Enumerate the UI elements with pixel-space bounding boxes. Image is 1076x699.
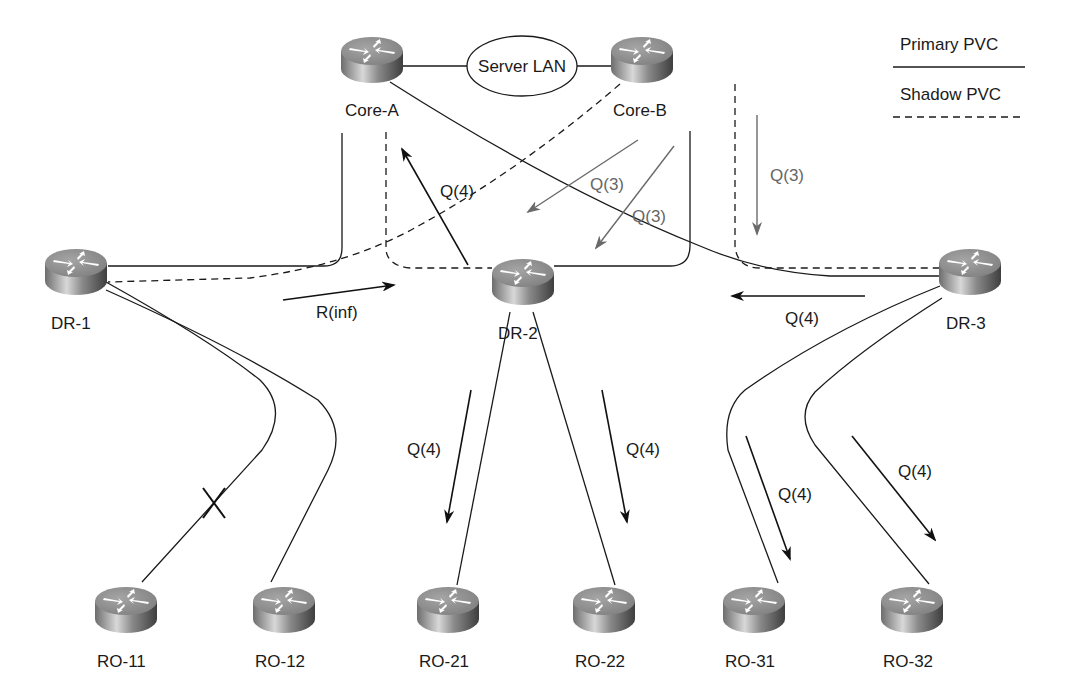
router-core-a: Core-A — [341, 37, 403, 120]
pvc-primary-dr-1-ro-11 — [106, 282, 276, 582]
label-rinf-dr1-to-dr2: R(inf) — [316, 303, 358, 322]
legend-shadow-label: Shadow PVC — [900, 85, 1001, 104]
arrow-q4-dr2-to-core-a — [402, 149, 468, 265]
network-diagram: Primary PVC Shadow PVC Server LAN Q(4) Q… — [0, 0, 1076, 699]
router-label: RO-12 — [255, 652, 305, 671]
pvc-primary-dr-3-ro-31 — [727, 286, 940, 583]
label-q4-dr3-to-dr2: Q(4) — [785, 309, 819, 328]
router-dr-3: DR-3 — [939, 249, 1001, 333]
arrow-q4-dr2-to-ro22 — [602, 390, 627, 522]
pvc-primary-core-a-dr-1 — [108, 133, 342, 266]
router-dr-2: DR-2 — [492, 259, 554, 343]
router-icon — [253, 587, 315, 633]
pvc-primary-dr-2-ro-21 — [457, 312, 510, 585]
pvc-shadow-core-b-dr-3 — [735, 84, 940, 268]
router-icon — [417, 587, 479, 633]
arrow-rinf-dr1-to-dr2 — [283, 285, 394, 300]
router-ro-22: RO-22 — [573, 587, 635, 671]
pvc-shadow-core-a-dr-2 — [386, 132, 492, 268]
router-label: RO-32 — [883, 652, 933, 671]
router-label: RO-22 — [575, 652, 625, 671]
router-icon — [45, 249, 107, 295]
router-label: RO-21 — [419, 652, 469, 671]
label-q4-dr2-to-core-a: Q(4) — [440, 182, 474, 201]
failed-link-x-icon — [203, 488, 225, 518]
label-q3-core-b-to-dr2: Q(3) — [632, 207, 666, 226]
router-label: RO-11 — [97, 652, 146, 671]
router-label: Core-B — [613, 101, 667, 120]
router-label: Core-A — [345, 101, 400, 120]
router-label: DR-1 — [51, 314, 91, 333]
router-core-b: Core-B — [611, 37, 673, 120]
router-icon — [573, 587, 635, 633]
pvc-primary-dr-2-ro-22 — [533, 312, 615, 585]
router-label: DR-3 — [946, 314, 986, 333]
label-q3-core-b-down: Q(3) — [770, 166, 804, 185]
label-q4-dr2-to-ro22: Q(4) — [626, 440, 660, 459]
server-lan-label: Server LAN — [478, 57, 566, 76]
router-icon — [939, 249, 1001, 295]
router-label: RO-31 — [725, 652, 775, 671]
pvc-primary-dr-1-ro-12 — [106, 290, 336, 582]
routers: Core-ACore-BDR-1DR-2DR-3RO-11RO-12RO-21R… — [45, 37, 1001, 671]
router-label: DR-2 — [498, 324, 538, 343]
router-ro-12: RO-12 — [253, 587, 315, 671]
pvc-primary-dr-3-ro-32 — [805, 298, 942, 584]
diagram-canvas: Primary PVC Shadow PVC Server LAN Q(4) Q… — [0, 0, 1076, 699]
legend: Primary PVC Shadow PVC — [893, 35, 1025, 117]
router-icon — [341, 37, 403, 83]
arrow-q4-dr3-to-ro32 — [852, 436, 935, 540]
shadow-pvcs — [108, 84, 940, 282]
server-lan: Server LAN — [403, 36, 611, 96]
router-icon — [95, 587, 157, 633]
message-arrows: Q(4) Q(3) Q(3) Q(3) R(inf) Q(4) Q(4) Q(4… — [283, 115, 935, 559]
label-q4-dr2-to-ro21: Q(4) — [407, 440, 441, 459]
legend-primary-label: Primary PVC — [900, 35, 998, 54]
router-ro-32: RO-32 — [881, 587, 943, 671]
arrow-q4-dr2-to-ro21 — [447, 390, 471, 522]
label-q4-dr3-to-ro31: Q(4) — [778, 485, 812, 504]
router-icon — [881, 587, 943, 633]
arrow-q3-core-b-to-dr2 — [596, 146, 674, 248]
router-ro-21: RO-21 — [417, 587, 479, 671]
router-icon — [611, 37, 673, 83]
router-dr-1: DR-1 — [45, 249, 107, 333]
label-q3-core-b-shadow: Q(3) — [590, 175, 624, 194]
router-ro-11: RO-11 — [95, 587, 157, 671]
router-icon — [723, 587, 785, 633]
label-q4-dr3-to-ro32: Q(4) — [898, 462, 932, 481]
router-icon — [492, 259, 554, 305]
router-ro-31: RO-31 — [723, 587, 785, 671]
